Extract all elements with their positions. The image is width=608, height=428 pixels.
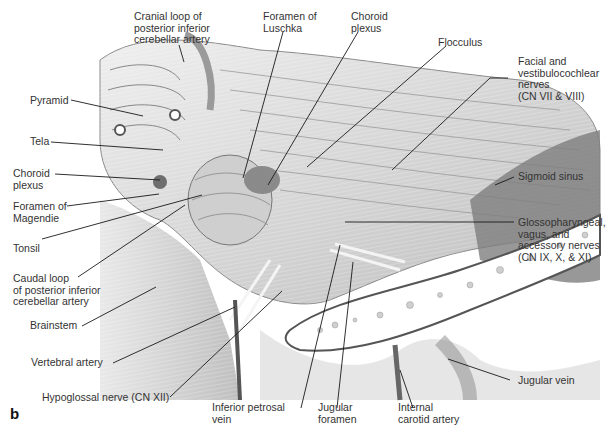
label-pyramid: Pyramid [30, 95, 69, 107]
label-cranial-loop: Cranial loop of posterior inferior cereb… [134, 11, 210, 46]
label-internal-carotid: Internal carotid artery [398, 402, 459, 425]
label-tela: Tela [30, 136, 49, 148]
label-choroid-plexus-top: Choroid plexus [351, 11, 388, 34]
anatomy-figure: Cranial loop of posterior inferior cereb… [0, 0, 608, 428]
label-tonsil: Tonsil [13, 243, 40, 255]
label-choroid-plexus-left: Choroid plexus [13, 168, 50, 191]
label-foramen-magendie: Foramen of Magendie [13, 201, 67, 224]
label-caudal-loop: Caudal loop of posterior inferior cerebe… [13, 273, 101, 308]
label-jugular-vein: Jugular vein [518, 375, 575, 387]
panel-letter: b [10, 405, 19, 422]
label-brainstem: Brainstem [30, 320, 77, 332]
label-hypoglossal: Hypoglossal nerve (CN XII) [42, 392, 169, 404]
label-foramen-luschka: Foramen of Luschka [263, 11, 317, 34]
label-facial-vestibulocochlear: Facial and vestibulocochlear nerves (CN … [518, 56, 599, 102]
label-inferior-petrosal: Inferior petrosal vein [212, 402, 285, 425]
label-flocculus: Flocculus [438, 37, 482, 49]
label-jugular-foramen: Jugular foramen [318, 402, 357, 425]
label-vertebral-artery: Vertebral artery [31, 357, 103, 369]
label-glossopharyngeal: Glossopharyngeal, vagus, and accessory n… [518, 217, 606, 263]
label-sigmoid-sinus: Sigmoid sinus [518, 171, 583, 183]
